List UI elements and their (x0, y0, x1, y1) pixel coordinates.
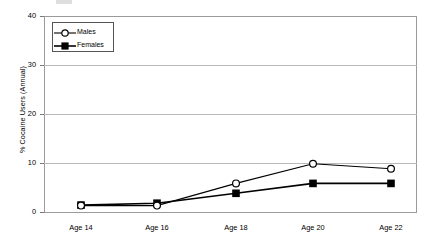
gridline-30 (44, 65, 417, 66)
x-tick-label-age-18: Age 18 (206, 224, 266, 232)
filled-square-marker-icon (53, 38, 77, 50)
x-tick-label-age-20: Age 20 (283, 224, 343, 232)
x-tick-label-age-16: Age 16 (127, 224, 187, 232)
x-tick-label-age-14: Age 14 (51, 224, 111, 232)
y-tick-label-30: 30 (10, 61, 36, 69)
legend-entry-males: Males (53, 24, 113, 38)
gridline-20 (44, 114, 417, 115)
legend-label-females: Females (77, 41, 104, 48)
legend-entry-females: Females (53, 37, 113, 51)
gridline-10 (44, 163, 417, 164)
cocaine-users-line-chart: % Cocaine Users (Annual) 40 30 20 10 0 (0, 0, 431, 251)
x-tick-label-age-22: Age 22 (361, 224, 421, 232)
y-tick-label-20: 20 (10, 110, 36, 118)
open-circle-marker-icon (53, 25, 77, 37)
legend-label-males: Males (77, 28, 96, 35)
y-tick-label-40: 40 (10, 12, 36, 20)
y-tick-label-0: 0 (10, 208, 36, 216)
top-edge-artifact (56, 0, 72, 4)
chart-legend: Males Females (52, 22, 114, 52)
y-tick-label-10: 10 (10, 159, 36, 167)
